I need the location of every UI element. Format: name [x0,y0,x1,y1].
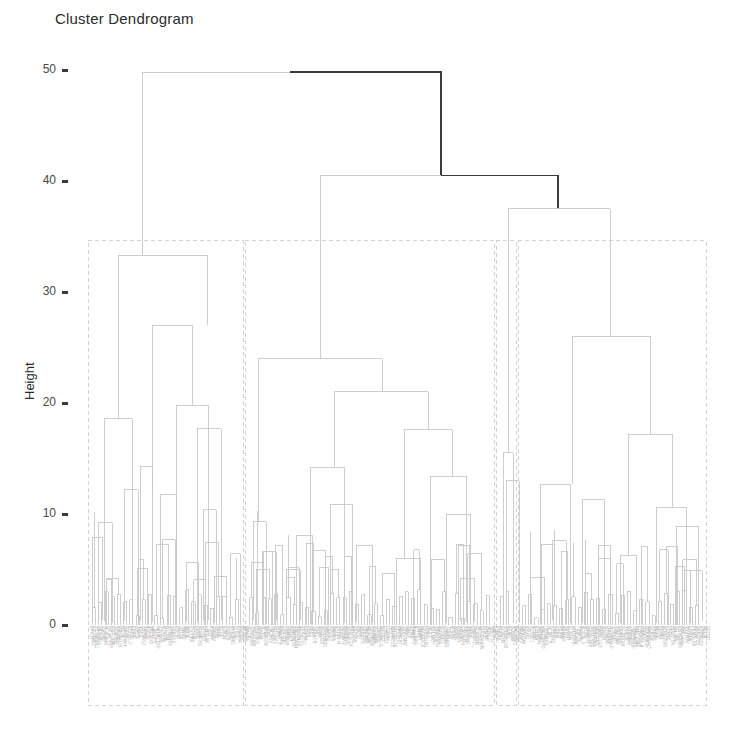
leaf-label-band: 9PK1Y62LNM92YC9WSR104-XBD7P4YP9CSV4BR_E-… [89,625,710,650]
cluster-dendrogram-plot: Cluster Dendrogram Height 9PK1Y62LNM92YC… [0,0,730,731]
merge-right-n26 [572,336,650,484]
merge-c3-n15 [503,453,513,623]
merge-mid-n6 [262,552,276,621]
merge-mid-n14 [310,467,344,623]
merge-left-n19 [104,419,132,622]
leaf-label: 2PDN1 [705,626,710,641]
merge-mid-root [258,359,382,522]
y-tick-label-20: 20 [20,395,56,409]
merge-right-n9 [676,526,698,622]
merge-mid-n4 [460,578,474,621]
y-tick-label-40: 40 [20,173,56,187]
merge-right-root [508,209,610,453]
branches-layer [92,72,702,625]
y-axis-ticks [62,70,68,625]
merge-mid-n13 [430,476,466,623]
merge-mid-n18 [404,430,452,559]
y-tick-label-30: 30 [20,284,56,298]
merge-left-n12 [124,490,138,624]
merge-left-root [118,255,207,418]
y-tick-label-10: 10 [20,506,56,520]
merge-left-n18 [197,429,221,623]
leaf-forest [93,511,699,625]
merge-right-n8 [552,541,566,624]
merge-root [142,72,441,255]
dendrogram-canvas: 9PK1Y62LNM92YC9WSR104-XBD7P4YP9CSV4BR_E-… [0,0,730,731]
merge-c3-n13 [506,481,519,624]
merge-node-40 [320,175,558,358]
y-tick-label-0: 0 [20,617,56,631]
merge-right-n17 [628,434,672,555]
merge-left-n27 [152,325,192,494]
merge-left-n8 [92,537,102,622]
y-tick-label-50: 50 [20,62,56,76]
merge-left-n14 [140,466,152,621]
